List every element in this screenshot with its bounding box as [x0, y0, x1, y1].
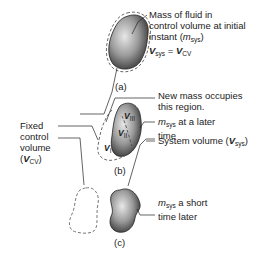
region-II-label: VII — [118, 128, 127, 141]
region-III-label: VIII — [124, 111, 135, 124]
label-fixed-cv: Fixed control volume (VCV) — [20, 120, 51, 167]
label-volume-equation: Vsys = VCV — [149, 45, 246, 59]
blob-a — [106, 12, 150, 72]
label-new-mass-line1: New mass occupies — [158, 90, 242, 101]
label-mass-initial-line2: control volume at initial — [149, 20, 246, 31]
region-I-label: VI — [104, 143, 111, 156]
label-new-mass: New mass occupies this region. — [158, 90, 242, 112]
caption-a: (a) — [115, 81, 127, 92]
label-mass-initial-line1: Mass of fluid in — [149, 9, 246, 20]
caption-c: (c) — [114, 237, 125, 248]
label-system-volume: System volume (Vsys) — [158, 135, 248, 149]
control-volume-c — [69, 188, 98, 234]
blob-c — [110, 189, 140, 232]
label-mass-initial-line3: instant (msys) — [149, 31, 246, 45]
label-new-mass-line2: this region. — [158, 101, 242, 112]
label-short-later: msys a short time later — [158, 197, 207, 222]
label-mass-initial: Mass of fluid in control volume at initi… — [149, 9, 246, 59]
caption-b: (b) — [114, 165, 126, 176]
